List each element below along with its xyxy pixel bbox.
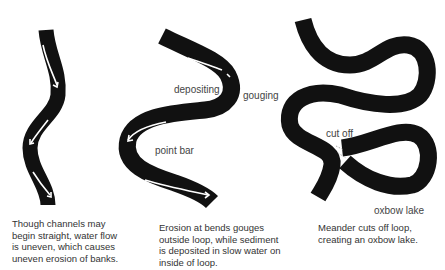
oxbow-channel-shape xyxy=(289,20,428,197)
caption-line: inside of loop. xyxy=(159,257,280,269)
caption-line: Meander cuts off loop, xyxy=(318,222,418,234)
caption-line: outside loop, while sediment xyxy=(159,234,280,246)
caption-line: is deposited in slow water on xyxy=(159,245,280,257)
meander-channel-shape xyxy=(127,36,231,202)
caption-line: is uneven, which causes xyxy=(12,241,118,253)
label-depositing: depositing xyxy=(174,84,220,95)
caption-line: begin straight, water flow xyxy=(12,230,118,242)
caption-line: Though channels may xyxy=(12,218,118,230)
caption-line: creating an oxbow lake. xyxy=(318,234,418,246)
caption-meander: Erosion at bends gouges outside loop, wh… xyxy=(159,222,280,268)
caption-line: Erosion at bends gouges xyxy=(159,222,280,234)
label-point-bar: point bar xyxy=(155,145,194,156)
label-cut-off: cut off xyxy=(326,128,353,139)
caption-line: uneven erosion of banks. xyxy=(12,253,118,265)
caption-oxbow: Meander cuts off loop, creating an oxbow… xyxy=(318,222,418,245)
label-oxbow-lake: oxbow lake xyxy=(374,205,424,216)
straight-channel-shape xyxy=(30,30,58,205)
label-gouging: gouging xyxy=(243,90,279,101)
caption-straight-channel: Though channels may begin straight, wate… xyxy=(12,218,118,264)
